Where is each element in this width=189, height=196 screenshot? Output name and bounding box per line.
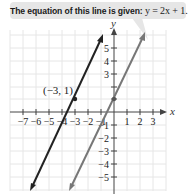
svg-text:5: 5 bbox=[104, 43, 109, 54]
svg-text:−3: −3 bbox=[70, 116, 81, 127]
point-neg3-1 bbox=[73, 97, 77, 101]
svg-text:−4: −4 bbox=[98, 159, 109, 170]
coordinate-plane: −7 −6 −5 −4 −3 −2 −1 1 2 3 5 4 3 −1 −2 −… bbox=[0, 0, 189, 196]
svg-text:1: 1 bbox=[125, 116, 130, 127]
svg-text:4: 4 bbox=[104, 56, 109, 67]
y-axis-arrow-icon bbox=[111, 28, 117, 35]
svg-text:−2: −2 bbox=[98, 133, 109, 144]
svg-text:3: 3 bbox=[104, 69, 109, 80]
x-axis-label: x bbox=[169, 105, 175, 117]
svg-text:−3: −3 bbox=[98, 146, 109, 157]
svg-text:−7: −7 bbox=[18, 116, 29, 127]
svg-text:−5: −5 bbox=[98, 172, 109, 183]
svg-text:−6: −6 bbox=[31, 116, 42, 127]
equation-callout: The equation of this line is given: y = … bbox=[10, 2, 186, 19]
point-label: (−3, 1) bbox=[43, 84, 73, 97]
point-0-1 bbox=[112, 97, 116, 101]
callout-prefix: The equation of this line is given: bbox=[10, 6, 145, 16]
svg-text:−5: −5 bbox=[44, 116, 55, 127]
svg-text:3: 3 bbox=[151, 116, 156, 127]
callout-equation: y = 2x + 1. bbox=[145, 5, 188, 16]
svg-text:−2: −2 bbox=[83, 116, 94, 127]
svg-text:2: 2 bbox=[138, 116, 143, 127]
